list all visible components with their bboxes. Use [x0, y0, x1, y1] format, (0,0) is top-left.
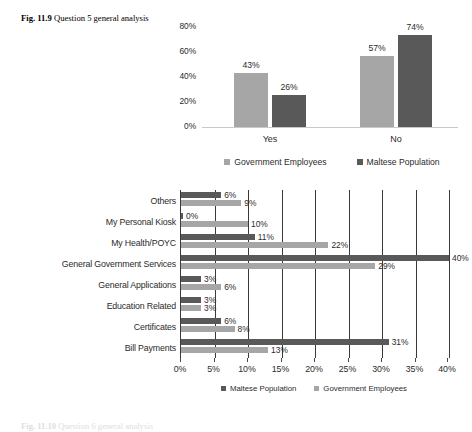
bar-value-label: 10% — [251, 219, 268, 229]
column-chart-y-axis-labels: 80% 60% 40% 20% 0% — [166, 16, 196, 128]
bar-value-label: 8% — [238, 324, 250, 334]
category-label-general-government-services: General Government Services — [62, 259, 176, 269]
bar-general-government-services-maltese-population: 40% — [181, 255, 449, 261]
x-tick — [180, 358, 181, 362]
y-tick-label: 40% — [180, 71, 196, 81]
bar-general-applications-government-employees: 6% — [181, 284, 221, 290]
legend-swatch-icon — [221, 386, 226, 391]
column-group-no: 57% 74% — [350, 16, 442, 127]
legend-item-maltese-population: Maltese Population — [357, 157, 440, 167]
x-tick-label: 0% — [174, 364, 187, 374]
bar-chart-x-axis-ticks — [180, 358, 448, 363]
legend-item-maltese-population: Maltese Population — [221, 384, 296, 393]
x-tick-label: 30% — [372, 364, 390, 374]
legend-swatch-icon — [357, 159, 363, 165]
x-tick — [348, 358, 349, 362]
legend-label: Maltese Population — [230, 384, 296, 393]
bar-fill — [234, 73, 268, 127]
y-tick-label: 60% — [180, 46, 196, 56]
bar-general-applications-maltese-population: 3% — [181, 276, 201, 282]
next-figure-caption-text: Question 6 general analysis — [58, 421, 153, 431]
category-label-others: Others — [151, 196, 177, 206]
bar-value-label: 57% — [368, 43, 385, 53]
category-label-education-related: Education Related — [107, 301, 176, 311]
x-tick-label: 25% — [339, 364, 357, 374]
bar-row-certificates: 6% 8% — [181, 316, 449, 337]
bar-fill — [272, 95, 306, 128]
column-chart-legend: Government Employees Maltese Population — [202, 155, 462, 169]
bar-row-general-government-services: 40% 29% — [181, 253, 449, 274]
figure-caption-text: Question 5 general analysis — [54, 13, 149, 23]
x-tick-label: 10% — [238, 364, 256, 374]
bar-my-health-poyc-maltese-population: 11% — [181, 234, 255, 240]
column-chart-baseline — [202, 127, 458, 128]
bar-my-health-poyc-government-employees: 22% — [181, 242, 328, 248]
bar-general-government-services-government-employees: 29% — [181, 263, 375, 269]
bar-value-label: 0% — [186, 211, 198, 221]
bar-value-label: 26% — [280, 82, 297, 92]
bar-chart-category-labels: Others My Personal Kiosk My Health/POYC … — [6, 190, 176, 358]
bar-my-personal-kiosk-maltese-population: 0% — [181, 213, 183, 219]
next-figure-caption: Fig. 11.10 Question 6 general analysis — [21, 421, 261, 431]
bar-value-label: 9% — [244, 198, 256, 208]
y-tick-label: 80% — [180, 21, 196, 31]
x-category-label-no: No — [390, 134, 402, 144]
legend-item-government-employees: Government Employees — [224, 157, 326, 167]
category-label-bill-payments: Bill Payments — [125, 343, 176, 353]
bar-value-label: 31% — [392, 337, 409, 347]
x-tick-label: 35% — [406, 364, 424, 374]
figure-caption: Fig. 11.9 Question 5 general analysis — [21, 13, 161, 25]
bar-others-government-employees: 9% — [181, 200, 241, 206]
y-tick-label: 20% — [180, 96, 196, 106]
bar-row-my-health-poyc: 11% 22% — [181, 232, 449, 253]
x-tick — [314, 358, 315, 362]
figure-number: Fig. 11.9 — [21, 13, 52, 23]
category-label-my-personal-kiosk: My Personal Kiosk — [106, 217, 176, 227]
category-label-general-applications: General Applications — [98, 280, 176, 290]
bar-education-related-maltese-population: 3% — [181, 297, 201, 303]
x-tick-label: 15% — [272, 364, 290, 374]
bar-value-label: 6% — [224, 282, 236, 292]
bar-chart-plot-area: 6% 9% 0% 10% 11% — [180, 190, 450, 358]
next-figure-number: Fig. 11.10 — [21, 421, 56, 431]
bar-fill — [360, 56, 394, 127]
bar-row-bill-payments: 31% 13% — [181, 337, 449, 358]
bar-row-education-related: 3% 3% — [181, 295, 449, 316]
bar-no-maltese-population: 74% — [398, 35, 432, 128]
bar-others-maltese-population: 6% — [181, 192, 221, 198]
bar-chart-legend: Maltese Population Government Employees — [180, 382, 448, 395]
x-tick-label: 20% — [305, 364, 323, 374]
bar-education-related-government-employees: 3% — [181, 305, 201, 311]
bar-value-label: 40% — [452, 253, 469, 263]
bar-row-general-applications: 3% 6% — [181, 274, 449, 295]
bar-value-label: 3% — [204, 303, 216, 313]
bar-yes-maltese-population: 26% — [272, 95, 306, 128]
category-label-my-health-poyc: My Health/POYC — [111, 238, 176, 248]
bar-bill-payments-government-employees: 13% — [181, 347, 268, 353]
legend-swatch-icon — [224, 159, 230, 165]
bar-row-others: 6% 9% — [181, 190, 449, 211]
bar-value-label: 11% — [258, 232, 274, 242]
y-tick-label: 0% — [184, 121, 196, 131]
column-group-yes: 43% 26% — [224, 16, 316, 127]
category-label-certificates: Certificates — [134, 322, 176, 332]
bar-value-label: 22% — [331, 240, 348, 250]
legend-label: Government Employees — [234, 157, 326, 167]
legend-label: Maltese Population — [367, 157, 440, 167]
bar-value-label: 3% — [204, 274, 216, 284]
x-tick — [214, 358, 215, 362]
bar-value-label: 43% — [242, 60, 259, 70]
bar-yes-government-employees: 43% — [234, 73, 268, 127]
bar-fill — [398, 35, 432, 128]
x-tick — [281, 358, 282, 362]
x-category-label-yes: Yes — [263, 134, 278, 144]
bar-value-label: 6% — [224, 190, 236, 200]
legend-swatch-icon — [314, 386, 319, 391]
bar-value-label: 13% — [271, 345, 288, 355]
bar-no-government-employees: 57% — [360, 56, 394, 127]
bar-value-label: 74% — [406, 22, 423, 32]
column-chart-question5: 80% 60% 40% 20% 0% 43% 26% — [166, 16, 462, 176]
x-tick-label: 5% — [207, 364, 220, 374]
bar-chart-x-axis-labels: 0% 5% 10% 15% 20% 25% 30% 35% 40% — [180, 364, 448, 377]
x-tick — [447, 358, 448, 362]
